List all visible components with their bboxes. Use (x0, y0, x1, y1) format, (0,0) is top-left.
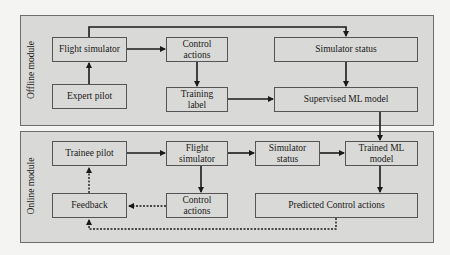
offline-simulator-status-node: Simulator status (274, 37, 418, 62)
predicted-control-actions-node: Predicted Control actions (255, 193, 418, 218)
feedback-node: Feedback (52, 193, 127, 218)
online-module-label: Online module (26, 151, 38, 221)
online-flight-simulator-node: Flight simulator (166, 141, 228, 166)
offline-flight-simulator-node: Flight simulator (52, 37, 127, 62)
offline-module-label: Offline module (26, 35, 38, 105)
online-simulator-status-node: Simulator status (255, 141, 320, 166)
trained-ml-model-node: Trained ML model (345, 141, 418, 166)
online-control-actions-node: Control actions (166, 193, 228, 218)
expert-pilot-node: Expert pilot (52, 84, 127, 109)
training-label-node: Training label (166, 87, 228, 112)
supervised-ml-model-node: Supervised ML model (274, 87, 418, 112)
trainee-pilot-node: Trainee pilot (52, 141, 127, 166)
offline-control-actions-node: Control actions (166, 37, 228, 62)
